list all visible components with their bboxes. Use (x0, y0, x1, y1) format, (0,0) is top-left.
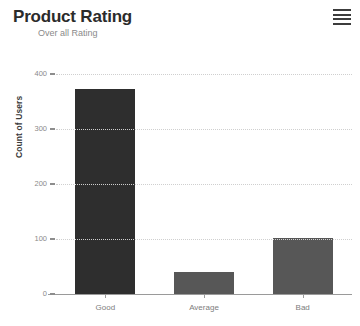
y-axis-tick-label: 400 (34, 70, 47, 78)
x-axis-label-average: Average (189, 303, 219, 312)
y-axis-tick-label: 0 (43, 290, 47, 298)
x-axis-tick-mark (105, 294, 106, 298)
x-axis-tick-mark (303, 294, 304, 298)
chart-header: Product Rating Over all Rating (0, 0, 360, 48)
hamburger-line (333, 18, 351, 20)
y-axis-tick-label: 200 (34, 180, 47, 188)
page-title: Product Rating (13, 7, 132, 27)
bar-average[interactable] (174, 272, 234, 294)
bar-bad[interactable] (273, 238, 333, 294)
y-axis-tick-mark (50, 183, 55, 185)
y-axis-tick-mark (50, 238, 55, 240)
gridline (56, 129, 352, 130)
hamburger-line (333, 9, 351, 11)
y-axis-tick-label: 100 (34, 235, 47, 243)
y-axis-tick-mark (50, 128, 55, 130)
x-axis-label-bad: Bad (296, 303, 310, 312)
x-axis-line (48, 294, 352, 295)
gridline (56, 239, 352, 240)
gridline (56, 184, 352, 185)
page-subtitle: Over all Rating (38, 28, 98, 39)
hamburger-menu-icon[interactable] (333, 9, 351, 25)
y-axis-tick-label: 300 (34, 125, 47, 133)
bar-good[interactable] (75, 89, 135, 294)
x-axis-tick-mark (204, 294, 205, 298)
chart-body: Count of Users 0100200300400GoodAverageB… (0, 48, 360, 326)
y-axis-title: Count of Users (14, 96, 24, 158)
plot-area: 0100200300400GoodAverageBad (56, 74, 352, 294)
gridline (56, 74, 352, 75)
x-axis-label-good: Good (96, 303, 116, 312)
hamburger-line (333, 23, 351, 25)
product-rating-chart-widget: Product Rating Over all Rating Count of … (0, 0, 360, 326)
hamburger-line (333, 14, 351, 16)
y-axis-tick-mark (50, 293, 55, 295)
y-axis-tick-mark (50, 73, 55, 75)
